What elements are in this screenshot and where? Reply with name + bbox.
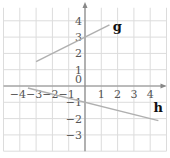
x-tick-label: 1 [98, 88, 105, 101]
y-axis-arrow-icon [83, 2, 88, 8]
x-axis-arrow-icon [161, 84, 167, 89]
y-tick-label: −2 [66, 113, 82, 126]
coordinate-plane: −4−3−2−112344321−1−2−30gh [0, 0, 170, 158]
x-tick-label: 4 [147, 88, 154, 101]
line-label-h: h [153, 100, 163, 115]
line-label-g: g [113, 19, 122, 34]
line-h [28, 88, 158, 121]
y-tick-label: −3 [66, 129, 82, 142]
x-tick-label: 3 [130, 88, 137, 101]
origin-label: 0 [75, 73, 82, 86]
y-tick-label: 4 [75, 15, 82, 28]
x-tick-label: 2 [114, 88, 121, 101]
line-g [36, 25, 109, 62]
y-tick-label: 2 [75, 47, 82, 60]
x-tick-label: −4 [10, 88, 26, 101]
